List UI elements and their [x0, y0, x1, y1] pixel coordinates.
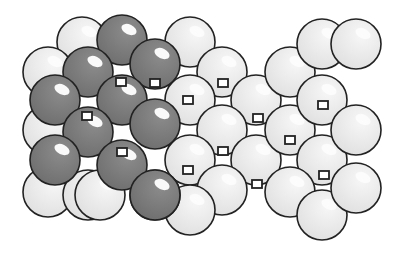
light-sphere [331, 19, 381, 69]
interstitial-hole [318, 101, 328, 109]
interstitial-hole [252, 180, 262, 188]
interstitial-hole [253, 114, 263, 122]
interstitial-hole [82, 112, 92, 120]
sphere-lattice-diagram [0, 0, 413, 256]
interstitial-hole [285, 136, 295, 144]
dark-sphere [130, 170, 180, 220]
interstitial-hole [218, 79, 228, 87]
light-sphere [331, 163, 381, 213]
interstitial-hole [116, 78, 126, 86]
interstitial-hole [150, 79, 160, 87]
interstitial-hole [319, 171, 329, 179]
interstitial-hole [218, 147, 228, 155]
dark-sphere [30, 135, 80, 185]
light-sphere [331, 105, 381, 155]
lattice-canvas [0, 0, 413, 256]
interstitial-hole [183, 166, 193, 174]
interstitial-hole [183, 96, 193, 104]
interstitial-hole [117, 148, 127, 156]
dark-sphere [130, 99, 180, 149]
